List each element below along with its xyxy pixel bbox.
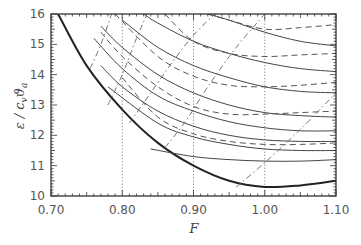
y-axis-tick-labels: 10111213141516 (30, 7, 45, 203)
series-dashed-line (165, 14, 336, 57)
series-dashed-line (115, 14, 336, 87)
series-solid-line (208, 14, 336, 46)
x-tick-label: 1.00 (251, 203, 278, 217)
y-tick-label: 11 (30, 159, 45, 173)
x-tick-label: 0.80 (109, 203, 136, 217)
y-tick-label: 14 (30, 68, 45, 82)
x-axis-tick-labels: 0.700.800.901.001.10 (38, 203, 350, 217)
y-tick-label: 13 (30, 98, 45, 112)
y-tick-label: 10 (30, 189, 45, 203)
x-tick-label: 0.70 (38, 203, 65, 217)
chart-series (58, 14, 336, 187)
x-tick-label: 0.90 (180, 203, 207, 217)
series-solid-line (101, 66, 336, 142)
x-axis-label: F (188, 221, 199, 236)
x-tick-label: 1.10 (323, 203, 350, 217)
svg-text:ε / cvϑa: ε / cvϑa (12, 83, 29, 130)
y-tick-label: 12 (30, 128, 45, 142)
y-axis-label: ε / cvϑa (12, 83, 29, 130)
series-dashdot-line (236, 93, 336, 187)
chart: 0.700.800.901.001.10 10111213141516 F ε … (0, 0, 361, 245)
series-dashdot-line (165, 14, 265, 148)
y-tick-label: 16 (30, 7, 45, 21)
y-tick-label: 15 (30, 37, 45, 51)
